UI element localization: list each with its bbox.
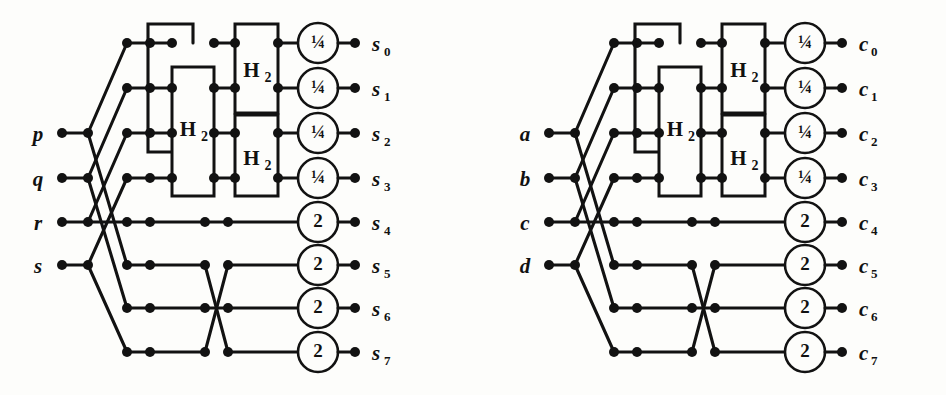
- box-port: [654, 83, 664, 93]
- output-subscript-c3: 3: [871, 179, 878, 194]
- box-port: [760, 173, 770, 183]
- output-label-c4: c: [859, 211, 869, 235]
- box-port: [209, 173, 219, 183]
- output-label-s7: s: [371, 341, 380, 365]
- scale-value-s1: ¼: [311, 76, 325, 97]
- output-label-s0: s: [371, 32, 380, 56]
- box-port: [167, 173, 177, 183]
- output-subscript-s7: 7: [384, 353, 391, 368]
- output-subscript-s2: 2: [384, 134, 391, 149]
- input-label-d: d: [520, 254, 531, 278]
- scale-value-s7: 2: [313, 340, 323, 361]
- gate-label-H2-right-top: H: [730, 58, 746, 82]
- input-label-s: s: [33, 254, 42, 278]
- circuit-left: pqrsH2H2H2¼s0¼s1¼s2¼s32s42s52s62s7: [31, 23, 391, 372]
- fanout-diagonal: [575, 43, 614, 133]
- output-label-c1: c: [859, 77, 869, 101]
- box-port: [717, 173, 727, 183]
- scale-value-s4: 2: [313, 210, 323, 231]
- box-port: [167, 128, 177, 138]
- box-port: [230, 83, 240, 93]
- box-port: [696, 83, 706, 93]
- input-label-q: q: [33, 167, 44, 191]
- input-terminal-a: [544, 128, 554, 138]
- gate-subscript-H2-right-top: 2: [752, 70, 759, 85]
- output-label-c3: c: [859, 167, 869, 191]
- gate-label-H2-right-top: H: [243, 58, 259, 82]
- input-terminal-r: [57, 217, 67, 227]
- gate-label-H2-mid: H: [180, 117, 196, 141]
- box-port: [167, 38, 177, 48]
- scale-value-s0: ¼: [311, 31, 325, 52]
- output-label-s6: s: [371, 297, 380, 321]
- output-subscript-s0: 0: [384, 44, 391, 59]
- box-port: [760, 128, 770, 138]
- output-terminal: [837, 38, 847, 48]
- input-terminal-b: [544, 173, 554, 183]
- output-terminal: [350, 303, 360, 313]
- scale-value-s3: ¼: [311, 166, 325, 187]
- gate-subscript-H2-right-top: 2: [265, 70, 272, 85]
- output-label-c7: c: [859, 341, 869, 365]
- output-label-s1: s: [371, 77, 380, 101]
- input-label-b: b: [520, 167, 531, 191]
- box-port: [167, 83, 177, 93]
- scale-value-s5: 2: [313, 253, 323, 274]
- input-label-p: p: [31, 122, 44, 146]
- input-terminal-p: [57, 128, 67, 138]
- box-port: [696, 38, 706, 48]
- scale-value-c3: ¼: [798, 166, 812, 187]
- output-label-s3: s: [371, 167, 380, 191]
- scale-value-c7: 2: [800, 340, 810, 361]
- output-terminal: [837, 128, 847, 138]
- input-label-a: a: [520, 122, 531, 146]
- input-label-r: r: [34, 211, 43, 235]
- gate-subscript-H2-mid: 2: [688, 129, 695, 144]
- scale-value-c2: ¼: [798, 121, 812, 142]
- output-subscript-s1: 1: [384, 89, 391, 104]
- scale-value-c4: 2: [800, 210, 810, 231]
- output-terminal: [350, 38, 360, 48]
- box-port: [654, 38, 664, 48]
- box-port: [230, 38, 240, 48]
- circuit-diagram-svg: pqrsH2H2H2¼s0¼s1¼s2¼s32s42s52s62s7abcdH2…: [0, 0, 946, 395]
- input-terminal-s: [57, 260, 67, 270]
- fanout-diagonal: [88, 265, 127, 352]
- fanout-diagonal: [88, 133, 127, 222]
- box-port: [230, 128, 240, 138]
- fanout-diagonal: [88, 88, 127, 178]
- gate-label-H2-right-bottom: H: [730, 146, 746, 170]
- gate-label-H2-right-bottom: H: [243, 146, 259, 170]
- box-port: [760, 38, 770, 48]
- output-terminal: [837, 347, 847, 357]
- input-terminal-c: [544, 217, 554, 227]
- gate-subscript-H2-mid: 2: [201, 129, 208, 144]
- fanout-diagonal: [88, 43, 127, 133]
- box-port: [696, 173, 706, 183]
- box-port: [273, 173, 283, 183]
- box-port: [209, 128, 219, 138]
- output-label-c2: c: [859, 122, 869, 146]
- output-subscript-s6: 6: [384, 309, 391, 324]
- output-terminal: [350, 347, 360, 357]
- output-terminal: [837, 83, 847, 93]
- scale-value-s2: ¼: [311, 121, 325, 142]
- fanout-diagonal: [575, 133, 614, 222]
- box-port: [717, 128, 727, 138]
- output-label-c6: c: [859, 297, 869, 321]
- input-terminal-q: [57, 173, 67, 183]
- scale-value-c1: ¼: [798, 76, 812, 97]
- fanout-diagonal: [575, 88, 614, 178]
- gate-subscript-H2-right-bottom: 2: [752, 158, 759, 173]
- output-label-c5: c: [859, 254, 869, 278]
- scale-value-c6: 2: [800, 296, 810, 317]
- output-terminal: [350, 173, 360, 183]
- box-port: [273, 128, 283, 138]
- output-terminal: [350, 217, 360, 227]
- scale-value-c0: ¼: [798, 31, 812, 52]
- output-subscript-s5: 5: [384, 266, 391, 281]
- output-subscript-s4: 4: [384, 223, 391, 238]
- box-port: [654, 173, 664, 183]
- gate-label-H2-mid: H: [667, 117, 683, 141]
- output-terminal: [350, 128, 360, 138]
